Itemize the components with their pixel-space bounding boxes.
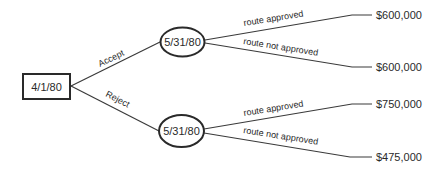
outcome-label-accept-not-approved: route not approved [243, 36, 319, 58]
decision-label-reject: Reject [104, 89, 132, 110]
root-node-label: 4/1/80 [31, 81, 62, 93]
outcome-label-reject-not-approved: route not approved [243, 125, 319, 147]
decision-tree-diagram: Accept Reject route approved route not a… [0, 0, 441, 172]
outcome-label-reject-approved: route approved [243, 99, 304, 118]
edge-accept [71, 42, 160, 86]
payoff-accept-approved: $600,000 [376, 9, 422, 21]
payoff-reject-not-approved: $475,000 [376, 151, 422, 163]
payoff-reject-approved: $750,000 [376, 98, 422, 110]
chance-node-accept-label: 5/31/80 [164, 36, 201, 48]
payoff-accept-not-approved: $600,000 [376, 61, 422, 73]
chance-node-reject-label: 5/31/80 [163, 125, 200, 137]
